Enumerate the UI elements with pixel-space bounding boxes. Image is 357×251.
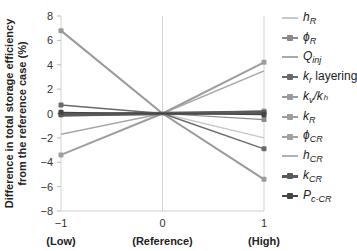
legend-label: kr layering: [303, 69, 357, 85]
data-point-marker: [59, 110, 64, 115]
y-axis-label-line: Difference in total storage efficiency: [3, 18, 15, 208]
legend-swatch-icon: [282, 72, 298, 82]
x-axis-ticks: −1(Low)0(Reference)1(High): [46, 217, 280, 247]
legend-label: kR: [303, 109, 316, 125]
legend-swatch-icon: [282, 33, 298, 43]
data-point-marker: [59, 28, 64, 33]
legend-item: Qinj: [282, 48, 357, 68]
y-axis-label: Difference in total storage efficiencyfr…: [3, 18, 28, 208]
legend-label: kCR: [303, 168, 322, 184]
legend-label: hCR: [303, 148, 323, 164]
legend-item: kR: [282, 107, 357, 127]
x-tick-label: 1: [261, 217, 267, 229]
legend-swatch-icon: [282, 132, 298, 142]
legend-label: kv/kₕ: [303, 89, 328, 105]
x-tick-label: 0: [159, 217, 165, 229]
legend-item: ϕCR: [282, 127, 357, 147]
legend-item: kCR: [282, 166, 357, 186]
legend-item: ϕR: [282, 28, 357, 48]
x-category-label: (High): [248, 235, 280, 247]
data-point-marker: [59, 152, 64, 157]
y-tick-label: −6: [40, 181, 53, 193]
chart-legend: hRϕRQinjkr layeringkv/kₕkRϕCRhCRkCRPc-CR: [282, 8, 357, 206]
legend-label: Pc-CR: [303, 188, 332, 204]
data-point-marker: [59, 102, 64, 107]
data-point-marker: [262, 177, 267, 182]
legend-swatch-icon: [282, 92, 298, 102]
y-axis-label-line: from the reference case (%): [16, 41, 28, 186]
y-axis-ticks: 86420−2−4−6−8: [40, 10, 61, 217]
legend-item: kr layering: [282, 67, 357, 87]
legend-item: kv/kₕ: [282, 87, 357, 107]
x-category-label: (Low): [46, 235, 76, 247]
legend-item: Pc-CR: [282, 186, 357, 206]
y-tick-label: 6: [47, 34, 53, 46]
legend-label: ϕCR: [303, 128, 323, 144]
legend-item: hCR: [282, 147, 357, 167]
legend-label: hR: [303, 10, 316, 26]
y-tick-label: −2: [40, 132, 53, 144]
data-point-marker: [262, 146, 267, 151]
legend-item: hR: [282, 8, 357, 28]
x-category-label: (Reference): [132, 235, 193, 247]
y-tick-label: 2: [47, 83, 53, 95]
legend-swatch-icon: [282, 191, 298, 201]
x-tick-label: −1: [55, 217, 68, 229]
legend-swatch-icon: [282, 171, 298, 181]
y-tick-label: −4: [40, 156, 53, 168]
legend-swatch-icon: [282, 112, 298, 122]
data-point-marker: [262, 60, 267, 65]
y-tick-label: 4: [47, 59, 53, 71]
legend-swatch-icon: [282, 13, 298, 23]
y-tick-label: 8: [47, 10, 53, 22]
data-point-marker: [262, 117, 267, 122]
y-tick-label: −8: [40, 205, 53, 217]
legend-swatch-icon: [282, 52, 298, 62]
legend-label: ϕR: [303, 30, 316, 46]
legend-label: Qinj: [303, 49, 321, 65]
legend-swatch-icon: [282, 151, 298, 161]
y-tick-label: 0: [47, 108, 53, 120]
data-point-marker: [262, 112, 267, 117]
